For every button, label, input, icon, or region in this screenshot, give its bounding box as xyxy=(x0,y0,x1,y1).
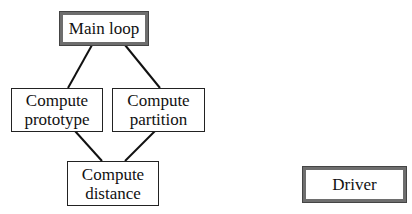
node-compute-distance: Compute distance xyxy=(67,161,159,206)
node-driver: Driver xyxy=(302,166,407,203)
edge-main-loop-to-compute-partition xyxy=(125,45,160,88)
edge-main-loop-to-compute-prototype xyxy=(68,45,92,88)
edge-compute-prototype-to-compute-distance xyxy=(75,131,102,161)
node-main-loop: Main loop xyxy=(59,11,149,46)
node-main-loop-label: Main loop xyxy=(69,19,139,38)
node-compute-prototype-label: Compute prototype xyxy=(24,91,89,129)
edge-compute-partition-to-compute-distance xyxy=(125,131,155,161)
node-compute-partition: Compute partition xyxy=(112,88,205,132)
node-compute-partition-label: Compute partition xyxy=(127,91,189,129)
node-compute-prototype: Compute prototype xyxy=(11,88,103,132)
node-driver-label: Driver xyxy=(332,175,376,194)
node-compute-distance-label: Compute distance xyxy=(82,165,144,203)
